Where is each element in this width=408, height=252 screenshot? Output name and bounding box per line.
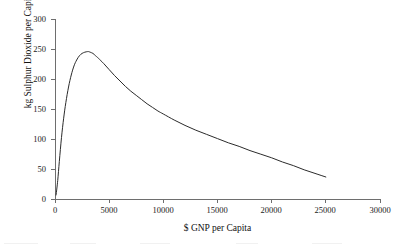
series-line-sulphur-dioxide: [56, 52, 326, 195]
y-axis-tick: [51, 199, 55, 200]
y-axis-line: [55, 19, 56, 199]
y-axis-tick: [51, 19, 55, 20]
y-axis-tick: [51, 169, 55, 170]
y-axis-title: kg Sulphur Dioxide per Capita: [22, 0, 34, 130]
chart-figure: 0 5000 10000 15000 20000 25000 30000 0 5…: [0, 0, 408, 252]
scan-artifact: [70, 243, 96, 244]
x-axis-tick-label: 30000: [350, 205, 408, 215]
y-axis-tick: [51, 49, 55, 50]
x-axis-tick-label: 15000: [187, 205, 247, 215]
x-axis-tick: [325, 199, 326, 203]
x-axis-tick-label: 25000: [295, 205, 355, 215]
x-axis-tick: [163, 199, 164, 203]
y-axis-tick: [51, 79, 55, 80]
x-axis-tick: [109, 199, 110, 203]
y-axis-tick: [51, 139, 55, 140]
x-axis-tick-label: 0: [25, 205, 85, 215]
x-axis-title: $ GNP per Capita: [55, 222, 380, 234]
x-axis-tick-label: 20000: [241, 205, 301, 215]
x-axis-tick-label: 5000: [79, 205, 139, 215]
scan-artifact: [4, 243, 38, 244]
x-axis-tick: [55, 199, 56, 203]
scan-artifact: [312, 243, 342, 244]
y-axis-tick-label: 0: [0, 194, 46, 204]
scan-artifact: [236, 243, 258, 244]
x-axis-tick: [217, 199, 218, 203]
y-axis-tick-label: 50: [0, 164, 46, 174]
x-axis-tick-label: 10000: [133, 205, 193, 215]
y-axis-tick-label: 100: [0, 134, 46, 144]
x-axis-tick: [271, 199, 272, 203]
x-axis-tick: [380, 199, 381, 203]
y-axis-tick: [51, 109, 55, 110]
scan-artifact: [140, 243, 170, 244]
